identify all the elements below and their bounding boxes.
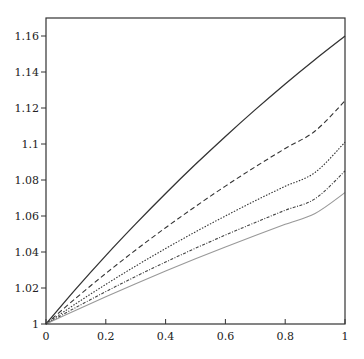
y-tick-label: 1.08 — [15, 174, 40, 187]
x-axis: 00.20.40.60.81 — [43, 319, 349, 343]
y-tick-label: 1.1 — [22, 138, 40, 151]
series-line-dashed — [46, 101, 345, 324]
y-tick-label: 1.06 — [15, 210, 40, 223]
series-line-light — [46, 193, 345, 324]
x-tick-label: 0.2 — [97, 330, 115, 343]
plot-frame — [46, 18, 345, 324]
x-tick-label: 0.4 — [157, 330, 175, 343]
x-tick-label: 0.6 — [217, 330, 235, 343]
line-chart: 00.20.40.60.81 11.021.041.061.081.11.121… — [0, 0, 364, 359]
y-tick-label: 1.12 — [15, 102, 40, 115]
y-axis: 11.021.041.061.081.11.121.141.16 — [15, 30, 47, 331]
series-layer — [46, 36, 345, 324]
series-line-dotted — [46, 142, 345, 324]
series-line-dash-dot — [46, 171, 345, 324]
y-tick-label: 1.02 — [15, 282, 40, 295]
x-tick-label: 1 — [342, 330, 349, 343]
series-line-solid — [46, 36, 345, 324]
y-tick-label: 1 — [32, 318, 39, 331]
x-tick-label: 0 — [43, 330, 50, 343]
y-tick-label: 1.16 — [15, 30, 40, 43]
y-tick-label: 1.14 — [15, 66, 40, 79]
y-tick-label: 1.04 — [15, 246, 40, 259]
x-tick-label: 0.8 — [276, 330, 294, 343]
